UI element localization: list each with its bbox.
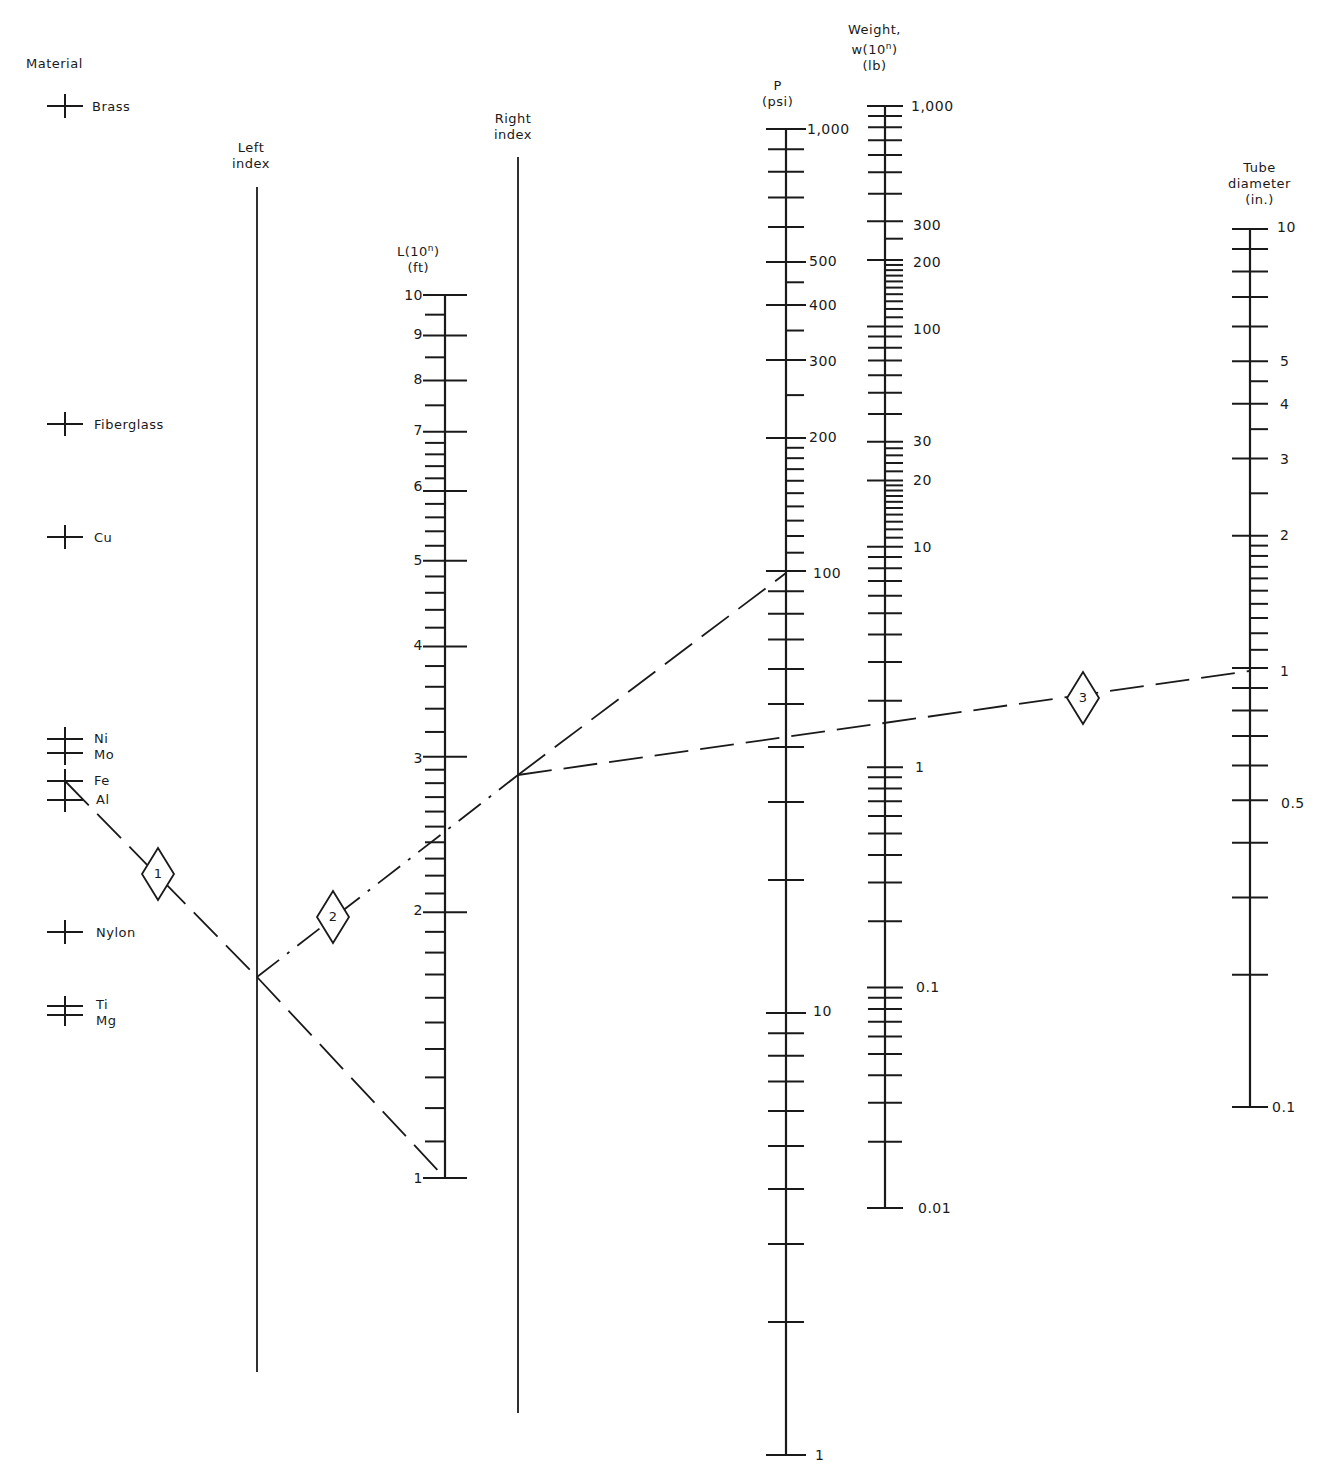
- solution-lines: [65, 573, 1250, 1178]
- length-label-4: 4: [405, 638, 423, 652]
- tube-label-5: 5: [1280, 354, 1289, 368]
- material-label-ti: Ti: [96, 997, 108, 1012]
- length-header: L(10n) (ft): [397, 240, 440, 276]
- length-header-line1: L(10n): [397, 240, 440, 260]
- right-index-header-line2: index: [494, 127, 532, 143]
- length-label-7: 7: [405, 423, 423, 437]
- length-header-text: L(10: [397, 244, 428, 259]
- tube-header-line3: (in.): [1228, 192, 1291, 208]
- right-index-header-line1: Right: [494, 111, 532, 127]
- left-index-header: Left index: [232, 140, 270, 172]
- pressure-header-line2: (psi): [762, 94, 793, 110]
- right-index-header: Right index: [494, 111, 532, 143]
- weight-header: Weight, w(10n) (lb): [848, 22, 901, 74]
- material-label-cu: Cu: [94, 530, 112, 545]
- weight-label-200: 200: [913, 255, 941, 269]
- material-label-nylon: Nylon: [96, 925, 136, 940]
- pressure-label-500: 500: [809, 254, 837, 268]
- length-label-3: 3: [405, 751, 423, 765]
- length-label-10: 10: [395, 288, 423, 302]
- material-label-mg: Mg: [96, 1013, 116, 1028]
- length-label-6: 6: [405, 479, 423, 493]
- length-label-1: 1: [405, 1171, 423, 1185]
- length-label-8: 8: [405, 372, 423, 386]
- tube-label-1: 1: [1280, 664, 1289, 678]
- scale-ticks: [47, 94, 1268, 1455]
- material-label-fe: Fe: [94, 773, 110, 788]
- pressure-label-200: 200: [809, 430, 837, 444]
- length-label-2: 2: [405, 903, 423, 917]
- length-header-close: ): [434, 244, 440, 259]
- weight-header-text: w(10: [851, 42, 885, 57]
- length-label-5: 5: [405, 553, 423, 567]
- scale-axes: [257, 106, 1250, 1455]
- pressure-label-1: 1: [815, 1448, 824, 1462]
- weight-label-300: 300: [913, 218, 941, 232]
- weight-label-1000: 1,000: [911, 99, 954, 113]
- weight-label-0.01: 0.01: [918, 1201, 951, 1215]
- tube-label-10: 10: [1277, 220, 1296, 234]
- pressure-label-100: 100: [813, 566, 841, 580]
- pressure-label-300: 300: [809, 354, 837, 368]
- tube-label-2: 2: [1280, 528, 1289, 542]
- step-3-badge-label: 3: [1073, 690, 1093, 705]
- material-label-brass: Brass: [92, 99, 130, 114]
- nomograph-canvas: [0, 0, 1335, 1484]
- weight-header-close: ): [892, 42, 898, 57]
- tube-label-4: 4: [1280, 397, 1289, 411]
- length-header-line2: (ft): [397, 260, 440, 276]
- weight-label-1: 1: [915, 760, 924, 774]
- material-label-al: Al: [96, 792, 110, 807]
- weight-header-line3: (lb): [848, 58, 901, 74]
- tube-header-line1: Tube: [1228, 160, 1291, 176]
- material-header: Material: [26, 56, 83, 72]
- weight-label-0.1: 0.1: [916, 980, 940, 994]
- left-index-header-line1: Left: [232, 140, 270, 156]
- step-1-badge-label: 1: [148, 866, 168, 881]
- tube-diameter-header: Tube diameter (in.): [1228, 160, 1291, 208]
- material-label-fiberglass: Fiberglass: [94, 417, 164, 432]
- pressure-label-1000: 1,000: [807, 122, 850, 136]
- material-label-ni: Ni: [94, 731, 108, 746]
- weight-label-10: 10: [913, 540, 932, 554]
- length-label-9: 9: [405, 327, 423, 341]
- pressure-header: P (psi): [762, 78, 793, 110]
- weight-label-100: 100: [913, 322, 941, 336]
- material-label-mo: Mo: [94, 747, 114, 762]
- pressure-header-line1: P: [762, 78, 793, 94]
- weight-header-line2: w(10n): [848, 38, 901, 58]
- tube-label-0.5: 0.5: [1281, 796, 1305, 810]
- tube-label-3: 3: [1280, 452, 1289, 466]
- weight-header-line1: Weight,: [848, 22, 901, 38]
- tube-label-0.1: 0.1: [1272, 1100, 1296, 1114]
- pressure-label-400: 400: [809, 298, 837, 312]
- left-index-header-line2: index: [232, 156, 270, 172]
- weight-label-20: 20: [913, 473, 932, 487]
- weight-label-30: 30: [913, 434, 932, 448]
- pressure-label-10: 10: [813, 1004, 832, 1018]
- step-2-badge-label: 2: [323, 909, 343, 924]
- tube-header-line2: diameter: [1228, 176, 1291, 192]
